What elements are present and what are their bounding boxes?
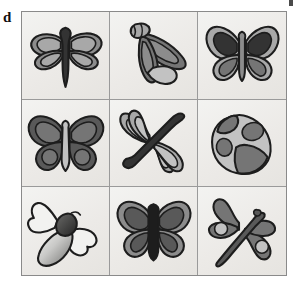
ladybug-icon xyxy=(198,100,286,187)
butterfly-icon xyxy=(110,187,197,275)
moth-icon xyxy=(110,12,197,99)
insect-icon-grid xyxy=(21,11,287,276)
grid-cell-row1-col3[interactable] xyxy=(198,12,286,100)
grid-cell-row1-col1[interactable] xyxy=(22,12,110,100)
grid-cell-row2-col1[interactable] xyxy=(22,100,110,188)
grid-cell-row3-col1[interactable] xyxy=(22,187,110,275)
grid-cell-row3-col2[interactable] xyxy=(110,187,198,275)
butterfly-icon xyxy=(198,12,286,99)
bee-icon xyxy=(22,187,109,275)
grid-cell-row2-col3[interactable] xyxy=(198,100,286,188)
figure-panel: d xyxy=(0,0,301,287)
crop-artifact-mark xyxy=(289,0,293,6)
dragonfly-icon xyxy=(22,12,109,99)
dragonfly-icon xyxy=(198,187,286,275)
grid-cell-row1-col2[interactable] xyxy=(110,12,198,100)
grid-cell-row3-col3[interactable] xyxy=(198,187,286,275)
panel-label: d xyxy=(3,10,11,25)
dragonfly-icon xyxy=(110,100,197,187)
butterfly-icon xyxy=(22,100,109,187)
grid-cell-row2-col2[interactable] xyxy=(110,100,198,188)
